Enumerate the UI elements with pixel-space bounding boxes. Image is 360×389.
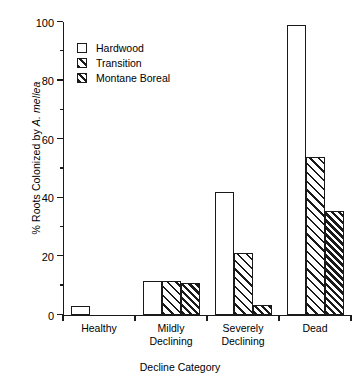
y-axis-title-species: A. mellea [30,82,42,127]
bar-mildly-declining-montane-boreal [181,283,200,315]
x-axis-category-label: SeverelyDeclining [221,322,264,348]
bar-severely-declining-transition [234,253,253,315]
x-axis-category-line: Declining [221,335,264,348]
bar-mildly-declining-transition [162,281,181,315]
legend-item-hardwood: Hardwood [77,40,170,55]
legend-swatch-hardwood [77,43,87,53]
y-tick-major [57,255,63,256]
legend-swatch-transition [77,58,87,68]
bar-severely-declining-montane-boreal [253,305,272,315]
legend-item-montane-boreal: Montane Boreal [77,70,170,85]
y-tick-major [57,21,63,22]
x-axis-category-label: Dead [302,322,327,335]
x-axis-category-line: Declining [149,335,192,348]
legend-item-transition: Transition [77,55,170,70]
y-tick-minor [60,50,64,51]
legend-label-transition: Transition [96,57,142,69]
x-tick [134,315,135,321]
x-axis-category-line: Mildly [149,322,192,335]
y-axis-title: % Roots Colonized by A. mellea [30,18,42,298]
x-axis-category-line: Severely [221,322,264,335]
x-axis-title: Decline Category [0,361,360,373]
x-axis-category-line: Healthy [81,322,117,335]
y-tick-minor [60,226,64,227]
chart-legend: Hardwood Transition Montane Boreal [77,40,170,85]
x-tick [350,315,351,321]
y-tick-major [57,197,63,198]
y-tick-label: 60 [42,134,54,146]
legend-swatch-montane-boreal [77,73,87,83]
x-axis-category-label: Healthy [81,322,117,335]
x-tick-origin [62,315,63,321]
x-tick [278,315,279,321]
bar-dead-montane-boreal [325,211,344,315]
y-tick-major [57,138,63,139]
bar-mildly-declining-hardwood [143,281,162,315]
y-tick-label: 40 [42,192,54,204]
y-tick-minor [60,109,64,110]
bar-dead-transition [306,157,325,315]
legend-label-montane-boreal: Montane Boreal [96,72,170,84]
y-tick-minor [60,167,64,168]
bar-dead-hardwood [287,25,306,315]
y-tick-minor [60,284,64,285]
y-tick-label: 0 [48,310,54,322]
x-axis-category-label: MildlyDeclining [149,322,192,348]
x-tick [206,315,207,321]
bar-healthy-hardwood [71,306,90,315]
y-tick-label: 100 [36,17,54,29]
chart-figure: % Roots Colonized by A. mellea 020406080… [0,0,360,389]
y-tick-label: 20 [42,251,54,263]
y-axis-title-prefix: % Roots Colonized by [30,126,42,234]
x-axis-category-line: Dead [302,322,327,335]
y-tick-label: 80 [42,75,54,87]
legend-label-hardwood: Hardwood [96,42,144,54]
y-tick-major [57,79,63,80]
bar-severely-declining-hardwood [215,192,234,315]
